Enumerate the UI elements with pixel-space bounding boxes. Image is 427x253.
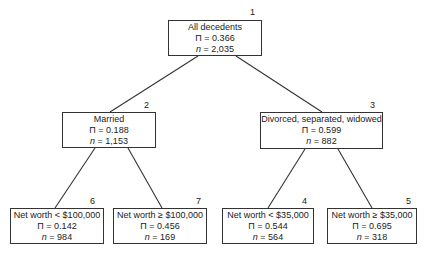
node-n: n = 169: [114, 232, 206, 243]
node-married-networth-low: Net worth < $100,000 Π = 0.142 n = 984: [10, 208, 104, 244]
n-value: = 318: [362, 232, 387, 242]
node-number-4: 4: [302, 197, 307, 206]
n-value: = 169: [150, 232, 175, 242]
node-number-5: 5: [406, 197, 411, 206]
node-number-1: 1: [250, 8, 255, 17]
node-number-2: 2: [144, 101, 149, 110]
node-pi: Π = 0.599: [261, 125, 382, 136]
node-all-decedents: All decedents Π = 0.366 n = 2,035: [168, 20, 262, 56]
n-value: = 564: [258, 232, 283, 242]
n-value: = 984: [47, 232, 72, 242]
node-n: n = 1,153: [63, 136, 155, 147]
node-n: n = 2,035: [169, 44, 261, 55]
node-label: Divorced, separated, widowed: [261, 114, 382, 125]
node-married: Married Π = 0.188 n = 1,153: [62, 112, 156, 148]
node-label: Net worth ≥ $35,000: [328, 210, 416, 221]
node-number-6: 6: [90, 197, 95, 206]
n-value: = 882: [311, 136, 336, 146]
edge-2-7: [128, 148, 162, 208]
node-pi: Π = 0.366: [169, 33, 261, 44]
node-n: n = 564: [223, 232, 313, 243]
node-label: Net worth < $100,000: [11, 210, 103, 221]
node-pi: Π = 0.142: [11, 221, 103, 232]
node-pi: Π = 0.456: [114, 221, 206, 232]
node-single-networth-high: Net worth ≥ $35,000 Π = 0.695 n = 318: [327, 208, 417, 244]
node-label: Net worth < $35,000: [223, 210, 313, 221]
node-pi: Π = 0.695: [328, 221, 416, 232]
edge-1-2: [110, 56, 198, 112]
node-number-7: 7: [196, 197, 201, 206]
edge-3-4: [268, 149, 305, 208]
node-pi: Π = 0.188: [63, 125, 155, 136]
node-n: n = 984: [11, 232, 103, 243]
node-divorced-separated-widowed: Divorced, separated, widowed Π = 0.599 n…: [260, 112, 383, 149]
node-n: n = 882: [261, 136, 382, 147]
n-value: = 1,153: [95, 136, 128, 146]
n-value: = 2,035: [201, 44, 234, 54]
node-married-networth-high: Net worth ≥ $100,000 Π = 0.456 n = 169: [113, 208, 207, 244]
node-label: All decedents: [169, 22, 261, 33]
edge-2-6: [55, 148, 95, 208]
node-label: Net worth ≥ $100,000: [114, 210, 206, 221]
node-n: n = 318: [328, 232, 416, 243]
edge-3-5: [338, 149, 372, 208]
node-pi: Π = 0.544: [223, 221, 313, 232]
edge-1-3: [236, 56, 322, 112]
node-number-3: 3: [370, 101, 375, 110]
node-single-networth-low: Net worth < $35,000 Π = 0.544 n = 564: [222, 208, 314, 244]
node-label: Married: [63, 114, 155, 125]
